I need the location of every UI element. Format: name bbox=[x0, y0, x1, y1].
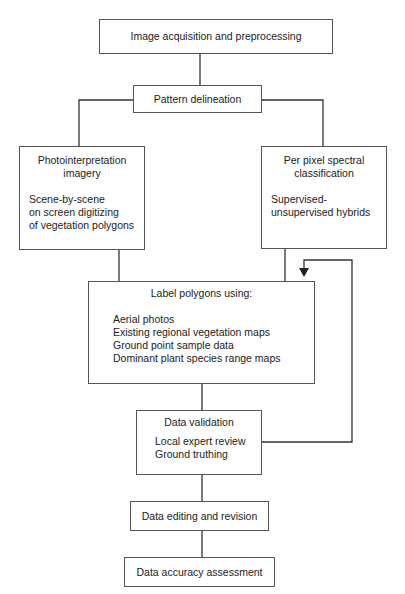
node-label: Pattern delineation bbox=[154, 93, 242, 106]
node-label: Data accuracy assessment bbox=[136, 566, 262, 579]
node-body-line: unsupervised hybrids bbox=[271, 206, 386, 219]
node-label: Image acquisition and preprocessing bbox=[130, 30, 301, 43]
node-photointerpretation: Photointerpretation imagery Scene-by-sce… bbox=[19, 146, 145, 250]
node-image-acquisition: Image acquisition and preprocessing bbox=[99, 19, 333, 54]
node-pattern-delineation: Pattern delineation bbox=[133, 85, 262, 113]
node-title: Data validation bbox=[137, 416, 261, 429]
node-body-line: of vegetation polygons bbox=[29, 219, 144, 232]
node-data-editing: Data editing and revision bbox=[130, 501, 269, 531]
node-title-line1: Photointerpretation bbox=[20, 154, 144, 167]
node-data-accuracy: Data accuracy assessment bbox=[124, 557, 275, 587]
node-title-line2: classification bbox=[262, 167, 386, 180]
node-body-line: Scene-by-scene bbox=[29, 193, 144, 206]
node-title-line2: imagery bbox=[20, 167, 144, 180]
node-per-pixel-spectral: Per pixel spectral classification Superv… bbox=[261, 146, 387, 249]
node-list-item: Local expert review bbox=[155, 435, 261, 448]
feedback-arrowhead-icon bbox=[299, 268, 309, 277]
node-title: Label polygons using: bbox=[89, 287, 314, 300]
node-body-line: on screen digitizing bbox=[29, 206, 144, 219]
node-label: Data editing and revision bbox=[142, 510, 258, 523]
node-list-item: Ground truthing bbox=[155, 448, 261, 461]
node-list-item: Dominant plant species range maps bbox=[113, 352, 314, 365]
node-label-polygons: Label polygons using: Aerial photos Exis… bbox=[88, 281, 315, 384]
node-list-item: Aerial photos bbox=[113, 313, 314, 326]
node-data-validation: Data validation Local expert review Grou… bbox=[136, 410, 262, 475]
node-body-line: Supervised- bbox=[271, 193, 386, 206]
node-list-item: Ground point sample data bbox=[113, 339, 314, 352]
node-list-item: Existing regional vegetation maps bbox=[113, 326, 314, 339]
node-title-line1: Per pixel spectral bbox=[262, 154, 386, 167]
